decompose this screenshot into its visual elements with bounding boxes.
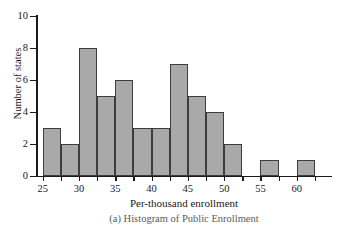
x-axis-tick-label: 50	[209, 183, 239, 194]
x-axis-tick-label: 30	[64, 183, 94, 194]
x-axis-tick	[206, 176, 207, 181]
histogram-bar	[297, 160, 315, 176]
x-axis-tick	[61, 176, 62, 181]
x-axis-tick	[170, 176, 171, 181]
x-axis-tick	[279, 176, 280, 181]
y-axis-tick	[30, 144, 36, 145]
y-axis-line	[36, 15, 38, 177]
histogram-bar	[43, 128, 61, 176]
histogram-bar	[224, 144, 242, 176]
histogram-bar	[188, 96, 206, 176]
y-axis-tick	[30, 80, 36, 81]
x-axis-tick	[97, 176, 98, 181]
figure-caption: (a) Histogram of Public Enrollment	[36, 213, 332, 225]
x-axis-tick	[188, 176, 189, 181]
x-axis-tick-label: 60	[282, 183, 312, 194]
y-axis-tick	[30, 16, 36, 17]
histogram-bar	[61, 144, 79, 176]
x-axis-tick	[133, 176, 134, 181]
y-axis-tick	[30, 48, 36, 49]
plot-area: 0246810 2530354045505560 Number of state…	[0, 0, 348, 225]
x-axis-tick	[242, 176, 243, 181]
x-axis-tick-label: 55	[245, 183, 275, 194]
x-axis-tick	[43, 176, 44, 181]
x-axis-tick	[297, 176, 298, 181]
x-axis-tick	[115, 176, 116, 181]
y-axis-title: Number of states	[12, 19, 23, 149]
x-axis-tick	[79, 176, 80, 181]
histogram-figure: 0246810 2530354045505560 Number of state…	[0, 0, 348, 225]
histogram-bar	[115, 80, 133, 176]
x-axis-tick	[315, 176, 316, 181]
x-axis-tick-label: 40	[137, 183, 167, 194]
x-axis-title: Per-thousand enrollment	[36, 197, 332, 209]
y-axis-tick-label: 0	[0, 171, 28, 182]
histogram-bar	[133, 128, 151, 176]
histogram-bar	[206, 112, 224, 176]
histogram-bar	[260, 160, 278, 176]
y-axis-tick	[30, 112, 36, 113]
histogram-bar	[170, 64, 188, 176]
x-axis-tick	[152, 176, 153, 181]
histogram-bar	[152, 128, 170, 176]
x-axis-tick-label: 45	[173, 183, 203, 194]
x-axis-tick	[260, 176, 261, 181]
x-axis-tick	[224, 176, 225, 181]
histogram-bar	[79, 48, 97, 176]
x-axis-tick-label: 25	[28, 183, 58, 194]
histogram-bar	[97, 96, 115, 176]
x-axis-tick-label: 35	[100, 183, 130, 194]
y-axis-tick	[30, 176, 36, 177]
